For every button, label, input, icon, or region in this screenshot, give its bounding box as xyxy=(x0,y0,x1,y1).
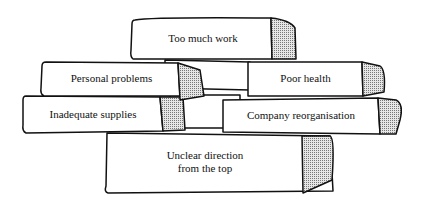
stress-blocks-diagram: Too much work Personal problems Poor hea… xyxy=(0,0,424,209)
label-personal-problems: Personal problems xyxy=(44,72,179,85)
label-unclear-direction-line1: Unclear direction xyxy=(108,149,302,162)
label-too-much-work: Too much work xyxy=(133,32,273,45)
label-inadequate-supplies: Inadequate supplies xyxy=(24,108,162,121)
label-company-reorganisation: Company reorganisation xyxy=(224,109,378,122)
label-poor-health: Poor health xyxy=(248,72,363,85)
label-unclear-direction-line2: from the top xyxy=(108,162,302,175)
